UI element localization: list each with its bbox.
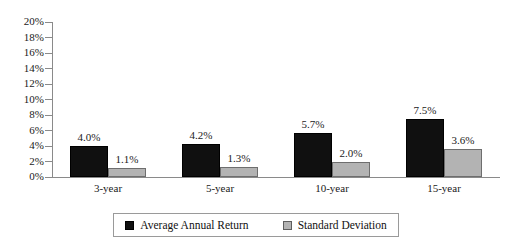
y-axis-tick-label: 10%	[2, 94, 44, 105]
bar-value-label: 1.1%	[101, 154, 153, 165]
y-axis-tick	[45, 115, 52, 116]
bar-value-label: 1.3%	[213, 153, 265, 164]
bar-value-label: 7.5%	[399, 105, 451, 116]
bar-15-year-series-0	[406, 119, 444, 177]
bar-15-year-series-1	[444, 149, 482, 177]
category-label-3-year: 3-year	[52, 182, 164, 194]
y-axis-tick	[45, 177, 52, 178]
bar-5-year-series-1	[220, 167, 258, 177]
y-axis-tick	[45, 22, 52, 23]
y-axis-tick	[45, 99, 52, 100]
y-axis-tick	[45, 130, 52, 131]
y-axis-tick	[45, 37, 52, 38]
y-axis-tick-label: 14%	[2, 63, 44, 74]
y-axis-tick-label: 12%	[2, 78, 44, 89]
chart-legend: Average Annual ReturnStandard Deviation	[113, 213, 399, 237]
x-axis-baseline	[52, 177, 500, 178]
bar-10-year-series-1	[332, 162, 370, 178]
y-axis-labels: 20%18%16%14%12%10%8%6%4%2%0%	[0, 0, 44, 248]
y-axis-tick	[45, 146, 52, 147]
bar-value-label: 4.2%	[175, 130, 227, 141]
y-axis-tick	[45, 53, 52, 54]
y-axis-tick-label: 4%	[2, 140, 44, 151]
category-label-5-year: 5-year	[164, 182, 276, 194]
legend-item-1[interactable]: Standard Deviation	[283, 219, 387, 231]
bar-3-year-series-1	[108, 168, 146, 177]
y-axis-tick-label: 6%	[2, 125, 44, 136]
bar-value-label: 5.7%	[287, 119, 339, 130]
bar-value-label: 4.0%	[63, 132, 115, 143]
y-axis-tick-label: 20%	[2, 16, 44, 27]
y-axis-tick-label: 8%	[2, 109, 44, 120]
bar-value-label: 2.0%	[325, 148, 377, 159]
y-axis-tick-label: 2%	[2, 156, 44, 167]
legend-label: Standard Deviation	[298, 219, 387, 231]
legend-label: Average Annual Return	[140, 219, 248, 231]
category-label-10-year: 10-year	[276, 182, 388, 194]
y-axis-tick-label: 18%	[2, 32, 44, 43]
legend-swatch-icon	[125, 221, 134, 230]
y-axis-tick	[45, 161, 52, 162]
bar-chart: 20%18%16%14%12%10%8%6%4%2%0% 4.0%1.1%4.2…	[0, 0, 513, 248]
y-axis-tick	[45, 68, 52, 69]
bar-value-label: 3.6%	[437, 135, 489, 146]
y-axis-tick-label: 0%	[2, 171, 44, 182]
y-axis-line	[52, 22, 53, 178]
legend-swatch-icon	[283, 221, 292, 230]
y-axis-tick-label: 16%	[2, 47, 44, 58]
category-label-15-year: 15-year	[388, 182, 500, 194]
legend-item-0[interactable]: Average Annual Return	[125, 219, 248, 231]
y-axis-tick	[45, 84, 52, 85]
